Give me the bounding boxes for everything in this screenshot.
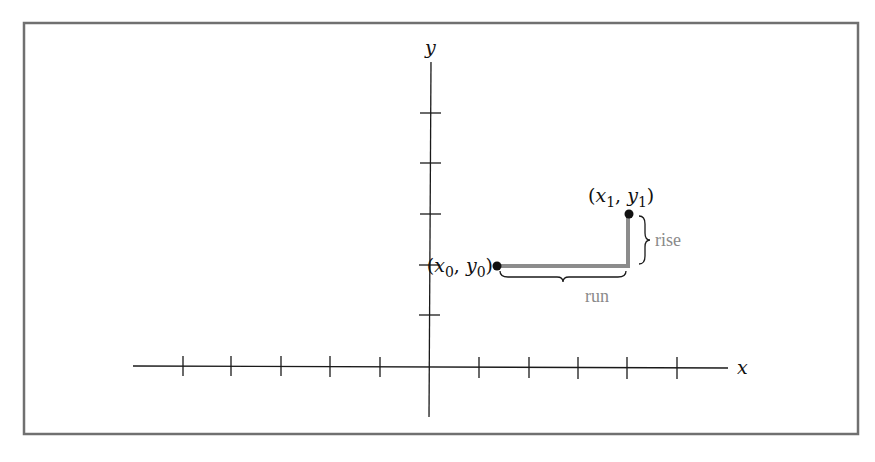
run-label: run bbox=[585, 286, 609, 306]
rise-label: rise bbox=[655, 230, 681, 250]
y-axis bbox=[419, 62, 441, 417]
y-axis-label: y bbox=[424, 36, 436, 58]
diagram-frame bbox=[24, 23, 858, 434]
rise-run-path bbox=[497, 215, 628, 266]
point-p1-label: (x1, y1) bbox=[588, 184, 654, 210]
x-axis-label: x bbox=[737, 356, 748, 378]
x-axis bbox=[133, 356, 728, 379]
rise-brace-icon bbox=[639, 216, 650, 264]
point-p0-label: (x0, y0) bbox=[427, 254, 493, 280]
run-brace-icon bbox=[500, 271, 626, 282]
point-p0 bbox=[493, 262, 502, 271]
slope-diagram: x y (x0, y0) (x1, y1) rise run bbox=[0, 0, 875, 462]
point-p1 bbox=[625, 210, 634, 219]
